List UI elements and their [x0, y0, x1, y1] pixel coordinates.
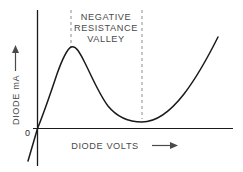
region-label-line-3: VALLEY — [87, 34, 125, 44]
chart-canvas: 0 NEGATIVE RESISTANCE VALLEY DIODE mA DI… — [0, 0, 243, 172]
origin-label: 0 — [25, 128, 30, 138]
region-label-line-2: RESISTANCE — [74, 23, 138, 33]
region-label-line-1: NEGATIVE — [81, 12, 132, 22]
x-axis-label: DIODE VOLTS — [71, 141, 139, 151]
y-axis-label: DIODE mA — [11, 75, 21, 126]
diode-curve-figure: 0 NEGATIVE RESISTANCE VALLEY DIODE mA DI… — [0, 0, 243, 172]
arrow-right-icon — [152, 142, 178, 149]
arrow-up-icon — [12, 45, 19, 71]
